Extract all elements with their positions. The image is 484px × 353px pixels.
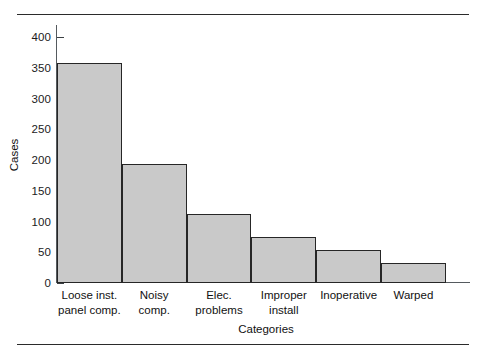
y-axis-tick-label: 350 [32, 62, 52, 74]
bar [187, 214, 252, 283]
y-axis-title-text: Cases [8, 139, 20, 172]
pareto-bar-chart-figure: Cases 050100150200250300350400 Loose ins… [0, 0, 484, 353]
x-axis-category-labels: Loose inst.panel comp.Noisycomp.Elec.pro… [57, 288, 470, 322]
y-axis-tick-mark [57, 283, 64, 284]
bar [57, 63, 122, 283]
bar [381, 263, 446, 283]
y-axis-tick-label: 200 [32, 154, 52, 166]
figure-top-rule [17, 14, 469, 15]
figure-bottom-rule [17, 344, 469, 345]
plot-area: 050100150200250300350400 [57, 25, 470, 283]
category-label-line-2: install [237, 303, 330, 318]
x-axis-title: Categories [0, 323, 484, 335]
bar [316, 250, 381, 283]
category-label-line-1: Noisy [140, 289, 169, 301]
bar [251, 237, 316, 283]
y-axis-tick-label: 50 [38, 246, 51, 258]
x-axis-title-text: Categories [238, 323, 294, 335]
y-axis-tick-label: 150 [32, 185, 52, 197]
category-label-line-1: Elec. [206, 289, 232, 301]
x-axis-category-label: Warped [367, 288, 460, 303]
y-axis-tick-label: 100 [32, 216, 52, 228]
bar [122, 164, 187, 283]
y-axis-title: Cases [0, 0, 28, 353]
y-axis-tick-label: 400 [32, 31, 52, 43]
y-axis-tick-label: 250 [32, 123, 52, 135]
category-label-line-1: Warped [393, 289, 433, 301]
y-axis-tick-label: 300 [32, 93, 52, 105]
bar-series [57, 25, 470, 283]
category-label-line-1: Improper [261, 289, 307, 301]
